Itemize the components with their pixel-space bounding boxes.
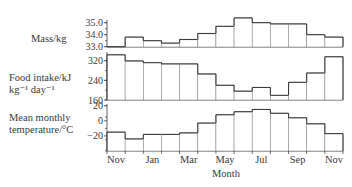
bar-food_intake-10 [289,82,307,100]
y-tick-label: 35.0 [86,17,104,28]
bar-food_intake-12 [325,57,343,100]
bar-mass-8 [252,23,270,47]
bar-food_intake-5 [198,74,216,100]
y-tick-label: 0 [98,115,103,126]
y-tick-label: 33.0 [86,41,104,52]
bar-temperature-5 [198,123,216,151]
y-tick-label: 320 [88,55,103,66]
bar-temperature-12 [325,134,343,151]
bar-mass-1 [125,37,143,47]
bar-temperature-1 [125,139,143,151]
bar-food_intake-6 [216,85,234,100]
x-tick-label: Mar [180,154,198,165]
bar-temperature-0 [107,132,125,151]
food-axis-label-line1: Food intake/kJ [9,72,71,84]
bar-food_intake-2 [143,63,161,100]
bar-mass-9 [270,24,288,47]
bar-food_intake-4 [180,64,198,100]
bar-temperature-10 [289,118,307,151]
bar-temperature-11 [307,124,325,151]
x-tick-label: May [215,154,235,165]
bar-temperature-2 [143,134,161,151]
mass-axis-label: Mass/kg [31,33,67,45]
bar-temperature-3 [161,134,179,151]
temp-axis-label-line1: Mean monthly [9,112,71,124]
bar-temperature-7 [234,112,252,151]
bar-mass-3 [161,43,179,47]
y-tick-label: 20 [93,100,103,111]
bar-mass-10 [289,24,307,47]
bar-food_intake-1 [125,61,143,100]
bar-temperature-9 [270,113,288,151]
bar-mass-2 [143,41,161,47]
bar-mass-11 [307,35,325,47]
bar-temperature-6 [216,115,234,151]
bar-food_intake-8 [252,87,270,100]
bar-temperature-8 [252,109,270,151]
y-tick-label: 240 [88,75,103,86]
x-tick-label: Jan [145,154,160,165]
bar-mass-7 [234,18,252,47]
bar-food_intake-7 [234,91,252,100]
bar-food_intake-11 [307,73,325,100]
x-tick-label: Sep [290,154,306,165]
bar-mass-4 [180,40,198,48]
x-tick-label: Nov [325,154,344,165]
x-axis-title: Month [212,168,240,180]
y-tick-label: 34.0 [86,29,104,40]
bar-food_intake-3 [161,64,179,100]
bar-mass-6 [216,26,234,47]
bar-food_intake-9 [270,95,288,100]
x-tick-label: Nov [107,154,126,165]
y-tick-label: −20 [87,130,103,141]
x-tick-label: Jul [255,154,267,165]
bar-mass-5 [198,34,216,48]
temp-axis-label-line2: temperature/°C [9,124,73,136]
bar-mass-12 [325,37,343,47]
bar-temperature-4 [180,133,198,151]
food-axis-label-line2: kg⁻¹ day⁻¹ [9,84,55,96]
bar-food_intake-0 [107,55,125,100]
